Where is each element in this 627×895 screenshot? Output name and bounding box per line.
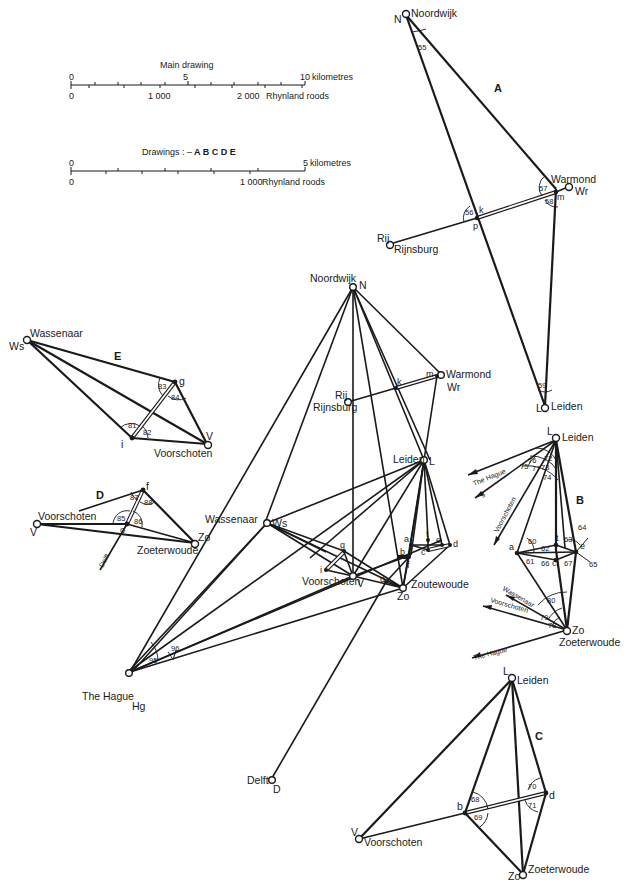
main-hg-code: Hg <box>132 700 146 712</box>
main-warmond-label: Warmond <box>446 368 491 380</box>
b-direction-the-hague-l: The Hague <box>472 467 507 487</box>
scale-small-bottom-unit: Rhynland roods <box>262 177 326 187</box>
scale-main-title: Main drawing <box>160 60 214 70</box>
scale-small-bottom-end: 1 000 <box>240 177 263 187</box>
main-rij-code: Rij <box>335 389 347 401</box>
drawing-d-letter: D <box>96 489 104 501</box>
drawing-a: Noordwijk N 55 A Warmond Wr 57 58 m 56 k… <box>377 7 596 414</box>
b-point-c: c <box>552 558 557 568</box>
scale-main-top-zero: 0 <box>69 72 74 82</box>
main-wassenaar-label: Wassenaar <box>205 513 258 525</box>
c-point-b: b <box>457 800 463 812</box>
b-angle-65: 65 <box>589 560 597 569</box>
c-point-d: d <box>549 789 555 801</box>
b-zoeterwoude-label: Zoeterwoude <box>559 636 620 648</box>
station-zoeterwoude-label-d: Zoeterwoude <box>137 544 198 556</box>
c-l-code: L <box>503 665 509 677</box>
scale-small-top-end: 5 <box>303 158 308 168</box>
c-angle-70: 70 <box>528 782 536 791</box>
b-direction-the-hague-zo: The Hague <box>473 646 509 662</box>
station-rijnsburg-label: Rijnsburg <box>394 243 439 255</box>
c-angle-69: 69 <box>474 813 482 822</box>
angle-85: 85 <box>117 514 125 523</box>
main-d-code: D <box>273 783 281 795</box>
point-m-label: m <box>557 192 565 202</box>
main-point-g: g <box>340 540 345 550</box>
station-l-code: L <box>536 402 542 414</box>
angle-57: 57 <box>539 184 547 193</box>
main-angle-95: 95 <box>149 656 157 665</box>
scale-main-top-end: 10 <box>300 72 310 82</box>
drawing-c: L Leiden C 70 d 68 71 b 69 V Voorschoten… <box>351 665 589 882</box>
main-point-c: c <box>421 547 426 557</box>
point-i-label: i <box>121 438 123 450</box>
station-wr-code: Wr <box>575 185 589 197</box>
main-drawing: Noordwijk N Warmond Wr m k Rij Rijnsburg… <box>82 272 491 795</box>
main-point-k: k <box>397 377 402 387</box>
main-angle-96: 96 <box>171 644 179 653</box>
station-v-code-d: V <box>30 526 37 538</box>
b-angle-66: 66 <box>541 559 549 568</box>
drawing-a-letter: A <box>494 82 502 94</box>
b-angle-74: 74 <box>543 473 551 482</box>
main-zoutewoude-label: Zoutewoude <box>411 578 469 590</box>
scale-main-bottom-unit: Rhynland roods <box>266 91 330 101</box>
b-angle-73: 73 <box>541 463 549 472</box>
main-point-m: m <box>426 369 434 379</box>
angle-88: 88 <box>144 498 152 507</box>
drawing-b: L Leiden The Hague g Voorschoten 76 75 7… <box>468 425 620 662</box>
scale-main-bottom-mid: 1 000 <box>148 91 171 101</box>
point-o-label: o <box>120 525 125 535</box>
scale-small-top-unit: kilometres <box>310 158 352 168</box>
b-angle-61: 61 <box>526 557 534 566</box>
c-angle-71: 71 <box>528 801 536 810</box>
b-angle-67: 67 <box>564 559 572 568</box>
main-point-b: b <box>400 547 405 557</box>
scale-main-bottom-zero: 0 <box>69 91 74 101</box>
b-angle-80: 80 <box>547 596 555 605</box>
angle-84: 84 <box>171 393 179 402</box>
b-zo-code: Zo <box>572 624 584 636</box>
main-point-d: d <box>453 539 458 549</box>
station-wassenaar-label: Wassenaar <box>30 327 83 339</box>
b-l-code: L <box>547 425 553 437</box>
angle-83: 83 <box>158 382 166 391</box>
c-voorschoten-label: Voorschoten <box>364 836 423 848</box>
main-v-code: V <box>357 577 364 589</box>
drawing-c-letter: C <box>535 730 543 742</box>
c-zo-code: Zo <box>508 870 520 882</box>
scale-main-top-unit: kilometres <box>312 72 354 82</box>
station-voorschoten-label: Voorschoten <box>154 447 213 459</box>
b-point-t: t <box>556 533 559 543</box>
angle-87: 87 <box>130 493 138 502</box>
b-point-a: a <box>509 542 514 552</box>
angle-82: 82 <box>143 428 151 437</box>
main-the-hague-label: The Hague <box>82 690 134 702</box>
b-angle-60: 60 <box>528 537 536 546</box>
b-angle-75: 75 <box>520 462 528 471</box>
b-angle-77: 77 <box>532 464 540 473</box>
drawing-e: Wassenaar Ws E g 83 84 81 82 i V Voorsch… <box>9 327 213 459</box>
scale-small-title-prefix: Drawings : – <box>142 147 192 157</box>
point-p-label: p <box>473 221 478 231</box>
point-g-label: g <box>179 375 185 387</box>
main-leiden-label: Leiden <box>393 453 425 465</box>
b-angle-64: 64 <box>578 523 586 532</box>
main-l-code: L <box>429 455 435 467</box>
scale-small-title-letters: A B C D E <box>194 147 236 157</box>
point-k-label: k <box>479 205 484 215</box>
scale-bar-main: Main drawing 0 5 10 kilometres 0 1 000 2… <box>69 60 354 101</box>
c-v-code: V <box>351 826 358 838</box>
triangulation-figure: Main drawing 0 5 10 kilometres 0 1 000 2… <box>0 0 627 895</box>
scale-small-top-zero: 0 <box>69 158 74 168</box>
main-wr-code: Wr <box>447 381 461 393</box>
drawing-d: D f 87 88 Voorschoten V 85 86 o Zo Zoete… <box>30 480 210 570</box>
angle-55: 55 <box>418 43 426 52</box>
main-point-e: e <box>436 535 441 545</box>
main-point-f: f <box>407 560 410 570</box>
angle-81: 81 <box>128 421 136 430</box>
angle-56: 56 <box>465 208 473 217</box>
angle-59: 59 <box>538 381 546 390</box>
station-ws-code: Ws <box>9 340 24 352</box>
station-v-code: V <box>206 430 213 442</box>
